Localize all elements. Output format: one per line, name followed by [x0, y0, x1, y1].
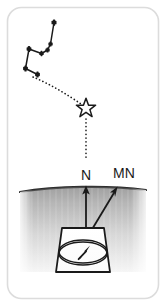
navigation-diagram: N MN	[0, 0, 166, 306]
magnetic-north-label: MN	[113, 165, 135, 181]
true-north-label: N	[81, 167, 91, 183]
compass-instrument	[56, 228, 110, 272]
figure-card: N MN	[0, 0, 166, 306]
